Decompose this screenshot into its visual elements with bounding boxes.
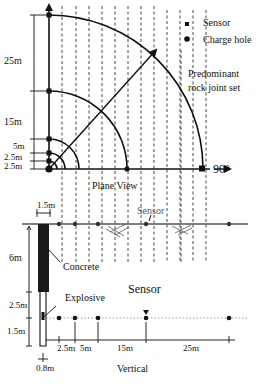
depth-sensor-label: Sensor xyxy=(128,283,161,295)
concrete-column xyxy=(38,224,49,292)
depth-2-5m-label: 2.5m xyxy=(9,301,27,310)
depth-1-5m-label: 1.5m xyxy=(7,327,25,336)
vertical-view-title: Vertical xyxy=(117,364,148,374)
legend-charge-hole-icon xyxy=(184,36,190,42)
surface-sensor-label: Sensor xyxy=(137,206,164,216)
depth-sensor-pointer xyxy=(143,310,149,315)
top-width-dimension xyxy=(36,209,51,217)
concrete-label: Concrete xyxy=(63,262,99,272)
horiz-distance-2-5m: 2.5m xyxy=(57,344,75,353)
legend-sensor-icon xyxy=(185,22,189,26)
explosive-label: Explosive xyxy=(65,293,105,303)
bottom-width-label: 0.8m xyxy=(36,364,54,373)
horiz-distance-15m: 15m xyxy=(117,344,133,353)
plan-distance-15m: 15m xyxy=(4,117,22,127)
depth-dimension-line xyxy=(26,226,32,346)
surface-joint-hatches xyxy=(106,224,192,237)
bottom-width-dimension xyxy=(38,353,48,362)
plan-dimension-line xyxy=(30,15,48,169)
joint-label-line1: Predominant xyxy=(188,69,239,79)
plan-view-title: Plane View xyxy=(92,181,138,191)
horiz-distance-5m: 5m xyxy=(80,344,92,353)
horiz-distance-25m: 25m xyxy=(183,344,199,353)
direction-90-label: 90° xyxy=(213,163,230,175)
diagram-graphics xyxy=(0,0,260,391)
legend-sensor-label: Sensor xyxy=(203,18,230,28)
plan-distance-25m: 25m xyxy=(4,56,22,66)
plan-distance-2-5m-b: 2.5m xyxy=(4,162,22,171)
depth-sensor-markers xyxy=(57,316,232,321)
diagonal-arrow xyxy=(49,50,156,169)
top-width-label: 1.5m xyxy=(37,201,55,210)
depth-6m-label: 6m xyxy=(9,253,22,263)
plan-distance-5m: 5m xyxy=(13,142,25,151)
legend-charge-hole-label: Charge hole xyxy=(203,35,251,45)
joint-label-line2: rock joint set xyxy=(188,83,240,93)
